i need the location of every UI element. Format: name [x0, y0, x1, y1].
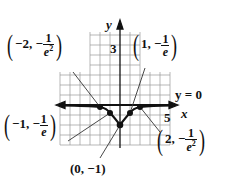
point-2	[137, 104, 143, 110]
asymptote-label: y = 0	[175, 88, 202, 101]
y-tick-label: 3	[110, 42, 117, 55]
point-label-2: (2, −1e2)	[155, 125, 207, 155]
point-0	[117, 122, 124, 129]
point-label-neg2: (−2, −1e2)	[5, 30, 64, 60]
point-neg2	[97, 104, 103, 110]
x-axis-label: x	[181, 107, 188, 120]
point-neg1	[107, 110, 113, 116]
point-1	[127, 110, 133, 116]
point-label-1: (1, −1e)	[131, 30, 179, 60]
point-label-neg1: (−1, −1e)	[2, 110, 58, 140]
y-axis-label: y	[106, 18, 112, 31]
y-axis-arrow-icon	[117, 20, 123, 29]
leader-lines	[68, 68, 160, 158]
x-tick-label: 5	[164, 111, 171, 124]
point-label-0: (0, −1)	[70, 162, 106, 175]
